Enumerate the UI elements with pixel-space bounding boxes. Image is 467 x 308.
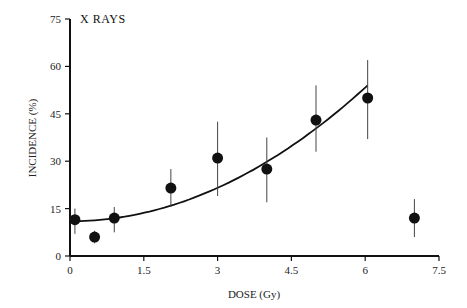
point-marker: [212, 153, 223, 164]
x-tick-label: 6: [362, 264, 368, 276]
y-tick-label: 0: [56, 250, 62, 262]
y-tick-label: 75: [50, 13, 62, 25]
data-points: [69, 60, 419, 243]
point-marker: [362, 93, 373, 104]
data-point: [212, 122, 223, 196]
x-tick-label: 0: [67, 264, 73, 276]
data-point: [362, 60, 373, 139]
axes: 01.534.567.501530456075: [50, 13, 446, 276]
data-point: [311, 85, 322, 151]
y-tick-label: 15: [50, 203, 62, 215]
x-axis-label: DOSE (Gy): [228, 288, 281, 301]
data-point: [409, 199, 420, 237]
point-marker: [165, 183, 176, 194]
point-marker: [89, 232, 100, 243]
data-point: [89, 231, 100, 244]
dose-response-chart: 01.534.567.501530456075 X RAYS DOSE (Gy)…: [0, 0, 467, 308]
x-tick-label: 4.5: [285, 264, 299, 276]
data-point: [261, 138, 272, 203]
point-marker: [69, 214, 80, 225]
y-axis-label: INCIDENCE (%): [26, 98, 39, 177]
data-point: [109, 207, 120, 232]
x-tick-label: 7.5: [432, 264, 446, 276]
y-tick-label: 45: [50, 108, 62, 120]
chart-title: X RAYS: [80, 12, 126, 26]
data-point: [69, 209, 80, 234]
x-tick-label: 1.5: [137, 264, 151, 276]
point-marker: [109, 213, 120, 224]
y-tick-label: 30: [50, 155, 62, 167]
x-tick-label: 3: [215, 264, 221, 276]
point-marker: [261, 164, 272, 175]
point-marker: [311, 115, 322, 126]
y-tick-label: 60: [50, 60, 62, 72]
point-marker: [409, 213, 420, 224]
data-point: [165, 169, 176, 207]
